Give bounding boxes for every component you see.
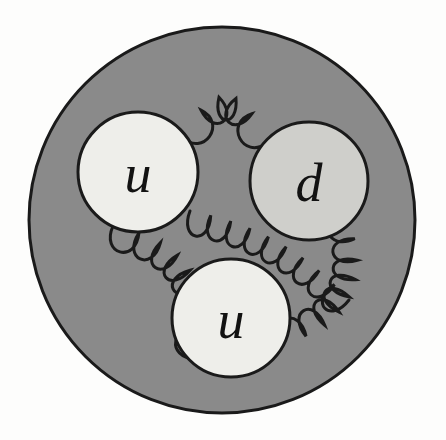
quark-u-left: u [78, 112, 198, 232]
quark-d-right-label: d [296, 153, 324, 213]
quark-u-left-label: u [125, 144, 152, 204]
figure-root: udu [0, 0, 446, 440]
quark-d-right: d [250, 122, 368, 240]
quark-u-bottom-label: u [218, 290, 245, 350]
proton-structure-diagram: udu [0, 0, 446, 440]
quark-u-bottom: u [172, 259, 290, 377]
